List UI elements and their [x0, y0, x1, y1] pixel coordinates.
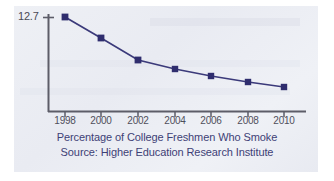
x-tick-label-2002: 2002 [127, 115, 148, 126]
x-axis-tick-labels: 1998 2000 2002 2004 2006 2008 2010 [0, 115, 334, 129]
x-tick-label-2004: 2004 [164, 115, 185, 126]
data-point-2004 [172, 66, 178, 72]
chart-title: Percentage of College Freshmen Who Smoke [0, 130, 334, 145]
y-axis-tick-label: 12.7 [18, 10, 39, 22]
x-tick-label-2006: 2006 [200, 115, 221, 126]
chart-caption: Percentage of College Freshmen Who Smoke… [0, 130, 334, 160]
data-line [65, 17, 284, 87]
data-point-2010 [281, 84, 287, 90]
x-tick-label-2000: 2000 [90, 115, 111, 126]
x-tick-label-2008: 2008 [237, 115, 258, 126]
data-markers [62, 14, 288, 91]
data-point-2002 [135, 57, 142, 64]
data-point-2006 [208, 73, 214, 79]
data-point-2000 [98, 35, 105, 42]
data-point-1998 [62, 14, 69, 21]
data-point-2008 [245, 79, 251, 85]
chart-source: Source: Higher Education Research Instit… [0, 145, 334, 160]
x-tick-label-1998: 1998 [54, 115, 75, 126]
x-tick-label-2010: 2010 [273, 115, 294, 126]
chart-figure: 12.7 1998 2000 2002 2004 2006 2008 2010 … [0, 0, 334, 181]
